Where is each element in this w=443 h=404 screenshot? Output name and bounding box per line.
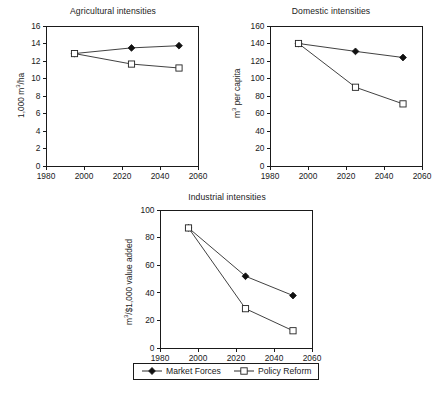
marker-open-square-icon: [71, 50, 77, 56]
x-tick-label: 2060: [413, 171, 432, 181]
y-tick-label: 0: [260, 161, 265, 171]
x-tick-label: 1980: [261, 171, 280, 181]
marker-filled-diamond-icon: [290, 292, 297, 299]
plot-frame: [270, 26, 422, 166]
x-tick-label: 1980: [151, 353, 170, 363]
series-line-market-forces: [75, 46, 180, 54]
plot-frame: [46, 26, 198, 166]
legend-item-policy-reform: Policy Reform: [233, 366, 311, 376]
x-tick-label: 2040: [375, 171, 394, 181]
panel-industrial: Industrial intensities m3/$1,000 value a…: [112, 192, 342, 367]
series-line-market-forces: [189, 228, 294, 296]
marker-open-square-icon: [352, 84, 358, 90]
y-tick-label: 80: [145, 232, 155, 242]
y-tick-label: 80: [255, 91, 265, 101]
marker-filled-diamond-icon: [400, 54, 407, 61]
x-tick-label: 2060: [189, 171, 208, 181]
y-tick-label: 120: [251, 56, 265, 66]
y-tick-label: 140: [251, 38, 265, 48]
y-tick-label: 14: [31, 38, 41, 48]
series-line-policy-reform: [75, 54, 180, 68]
y-tick-label: 16: [31, 21, 41, 31]
y-tick-label: 20: [255, 143, 265, 153]
y-tick-label: 12: [31, 56, 41, 66]
marker-open-square-icon: [185, 225, 191, 231]
figure-three-panel-intensities: Agricultural intensities 1,000 m3/ha 024…: [0, 0, 443, 404]
y-tick-label: 40: [255, 126, 265, 136]
x-tick-label: 2000: [75, 171, 94, 181]
filled-diamond-icon: [141, 366, 163, 376]
y-tick-label: 60: [145, 260, 155, 270]
legend-label-policy-reform: Policy Reform: [258, 366, 311, 376]
y-tick-label: 60: [255, 108, 265, 118]
y-tick-label: 4: [36, 126, 41, 136]
y-tick-label: 2: [36, 143, 41, 153]
marker-open-square-icon: [295, 40, 301, 46]
legend-item-market-forces: Market Forces: [141, 366, 221, 376]
y-tick-label: 20: [145, 315, 155, 325]
y-tick-label: 100: [251, 73, 265, 83]
y-tick-label: 40: [145, 288, 155, 298]
x-tick-label: 1980: [37, 171, 56, 181]
y-tick-label: 8: [36, 91, 41, 101]
x-tick-label: 2020: [337, 171, 356, 181]
y-tick-label: 10: [31, 73, 41, 83]
marker-open-square-icon: [400, 101, 406, 107]
x-tick-label: 2020: [227, 353, 246, 363]
marker-filled-diamond-icon: [128, 44, 135, 51]
legend: Market Forces Policy Reform: [133, 363, 319, 380]
marker-open-square-icon: [290, 328, 296, 334]
panel-domestic: Domestic intensities m3 per capita 02040…: [222, 6, 440, 186]
plot-area-domestic: 0204060801001201401601980200020202040206…: [222, 6, 440, 186]
open-square-icon: [233, 366, 255, 376]
x-tick-label: 2060: [303, 353, 322, 363]
x-tick-label: 2000: [189, 353, 208, 363]
legend-label-market-forces: Market Forces: [166, 366, 221, 376]
series-line-policy-reform: [299, 44, 404, 104]
marker-filled-diamond-icon: [352, 48, 359, 55]
y-tick-label: 160: [251, 21, 265, 31]
x-tick-label: 2040: [151, 171, 170, 181]
y-tick-label: 6: [36, 108, 41, 118]
x-tick-label: 2000: [299, 171, 318, 181]
y-tick-label: 100: [141, 205, 155, 215]
x-tick-label: 2040: [265, 353, 284, 363]
marker-filled-diamond-icon: [176, 42, 183, 49]
y-tick-label: 0: [150, 343, 155, 353]
x-tick-label: 2020: [113, 171, 132, 181]
panel-agricultural: Agricultural intensities 1,000 m3/ha 024…: [4, 6, 222, 186]
marker-open-square-icon: [176, 65, 182, 71]
y-tick-label: 0: [36, 161, 41, 171]
marker-open-square-icon: [128, 61, 134, 67]
plot-frame: [160, 210, 312, 348]
marker-open-square-icon: [242, 306, 248, 312]
plot-area-agricultural: 024681012141619802000202020402060: [4, 6, 222, 186]
series-line-policy-reform: [189, 228, 294, 331]
plot-area-industrial: 02040608010019802000202020402060: [112, 192, 342, 367]
